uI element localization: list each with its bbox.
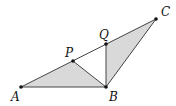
shaded-triangle-apb	[21, 61, 106, 87]
label-b: B	[108, 90, 118, 104]
label-p: P	[64, 46, 74, 60]
geometry-figure: A B C P Q	[0, 0, 176, 106]
point-c	[154, 17, 158, 21]
label-c: C	[161, 5, 170, 19]
point-a	[19, 85, 23, 89]
point-q	[104, 42, 108, 46]
label-q: Q	[99, 28, 109, 42]
label-a: A	[10, 90, 20, 104]
point-b	[104, 85, 108, 89]
